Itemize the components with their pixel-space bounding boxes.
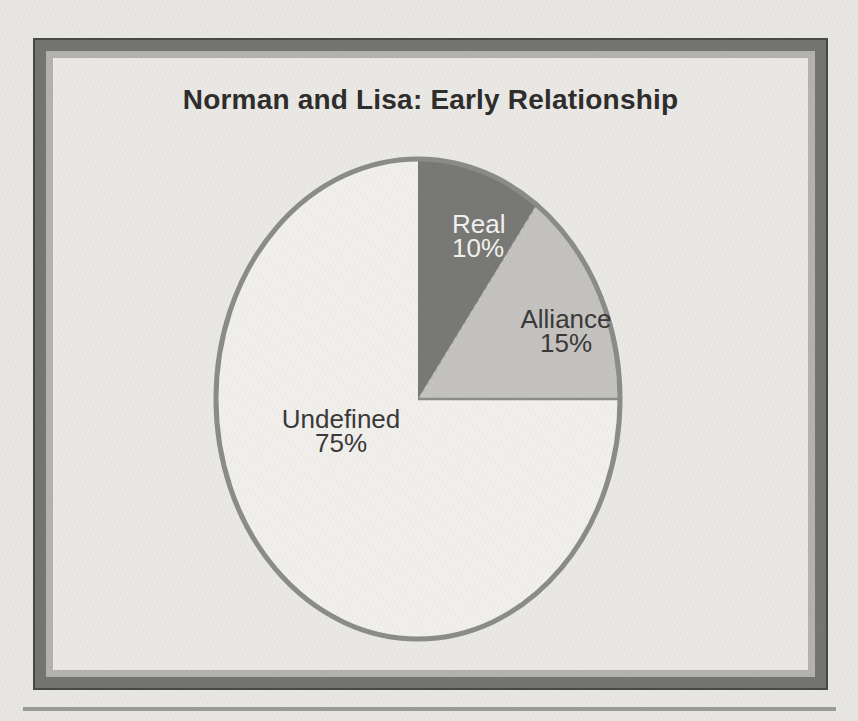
chart-title: Norman and Lisa: Early Relationship [33, 84, 828, 116]
pie-label-real-pct: 10% [452, 236, 505, 260]
pie-label-undefined: Undefined 75% [282, 407, 401, 455]
pie-label-alliance-pct: 15% [520, 331, 611, 355]
pie-label-alliance: Alliance 15% [520, 307, 611, 355]
pie-label-real: Real 10% [452, 212, 505, 260]
pie-label-undefined-pct: 75% [282, 431, 401, 455]
